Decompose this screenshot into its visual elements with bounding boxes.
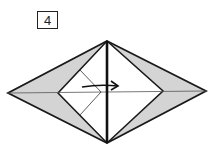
origami-diagram	[0, 0, 215, 148]
